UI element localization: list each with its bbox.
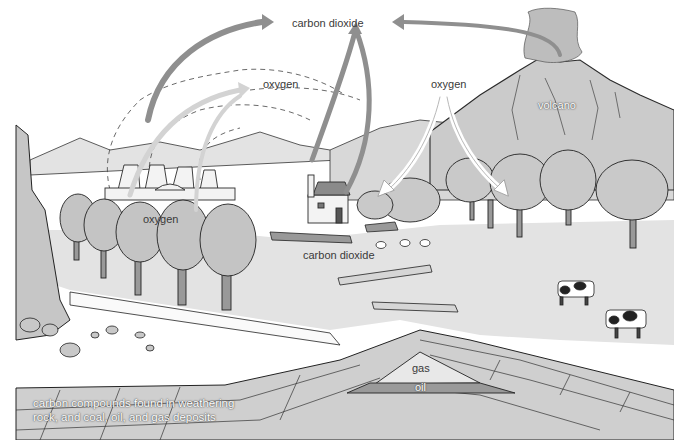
- label-carbon-dioxide-ground: carbon dioxide: [303, 250, 375, 261]
- label-gas: gas: [412, 363, 430, 374]
- label-oxygen-center: oxygen: [263, 79, 298, 90]
- label-oxygen-right: oxygen: [431, 79, 466, 90]
- label-volcano: volcano: [538, 100, 576, 111]
- label-carbon-dioxide-top: carbon dioxide: [292, 18, 364, 29]
- label-oxygen-trees: oxygen: [143, 214, 178, 225]
- label-deposits-line1: carbon compounds found in weathering: [33, 396, 234, 410]
- label-oil: oil: [415, 382, 426, 393]
- carbon-cycle-illustration: [0, 0, 674, 440]
- label-deposits-line2: rock, and coal, oil, and gas deposits: [33, 410, 234, 424]
- house: [308, 175, 350, 223]
- label-carbon-deposits: carbon compounds found in weathering roc…: [33, 396, 234, 424]
